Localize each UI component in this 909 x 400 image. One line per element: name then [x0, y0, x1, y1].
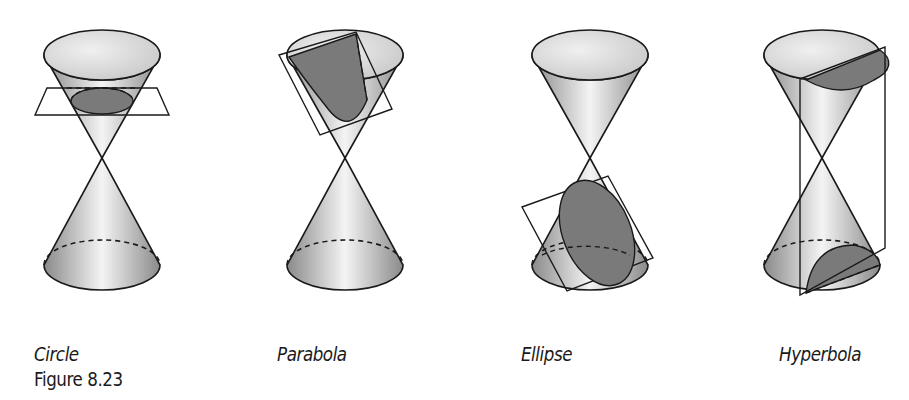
ellipse-cone: [522, 30, 653, 297]
circle-cone: [35, 30, 169, 290]
label-ellipse: Ellipse: [521, 343, 572, 365]
label-circle: Circle: [34, 343, 79, 365]
figure-caption: Figure 8.23: [34, 368, 123, 390]
conic-sections-figure: [0, 0, 909, 320]
parabola-cone: [279, 30, 403, 290]
label-hyperbola: Hyperbola: [779, 343, 861, 365]
label-parabola: Parabola: [277, 343, 347, 365]
hyperbola-cone: [764, 30, 889, 295]
